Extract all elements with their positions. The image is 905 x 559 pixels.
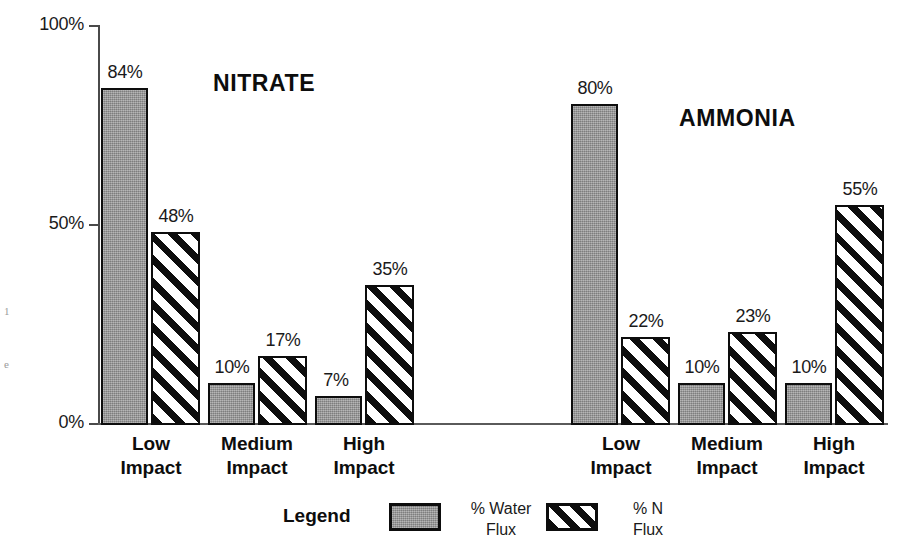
bar-value-nitrate-high-n-flux: 35% [355, 259, 425, 280]
legend-label-water-flux: % Water Flux [455, 499, 547, 541]
x-category-nitrate-low-line1: Low [105, 432, 197, 456]
x-category-nitrate-low: Low Impact [105, 432, 197, 480]
x-category-nitrate-medium: Medium Impact [207, 432, 307, 480]
panel-title-nitrate: NITRATE [213, 70, 315, 97]
x-category-nitrate-high-line1: High [318, 432, 410, 456]
bar-value-ammonia-high-water-flux: 10% [774, 357, 844, 378]
panel-title-ammonia: AMMONIA [679, 105, 796, 132]
x-category-nitrate-high: High Impact [318, 432, 410, 480]
legend-swatch-n-flux [546, 503, 598, 531]
bar-nitrate-low-water-flux [101, 88, 148, 425]
legend-title: Legend [283, 505, 351, 527]
bar-value-nitrate-medium-water-flux: 10% [197, 357, 267, 378]
y-tick-0 [89, 423, 98, 425]
chart-canvas: 1 e 100% 50% 0% NITRATE AMMONIA 84% 48% … [0, 0, 905, 559]
bar-value-nitrate-low-n-flux: 48% [141, 206, 211, 227]
y-tick-label-0: 0% [8, 412, 84, 433]
scan-artifact-left-lower: e [4, 358, 9, 370]
bar-ammonia-low-water-flux [571, 104, 618, 425]
bar-value-ammonia-medium-n-flux: 23% [718, 306, 788, 327]
x-category-ammonia-low-line1: Low [575, 432, 667, 456]
bar-ammonia-low-n-flux [621, 337, 670, 425]
y-tick-50 [89, 224, 98, 226]
bar-value-nitrate-high-water-flux: 7% [306, 370, 366, 391]
x-category-nitrate-high-line2: Impact [318, 456, 410, 480]
legend-label-n-flux: % N Flux [612, 499, 684, 541]
scan-artifact-left-upper: 1 [4, 305, 10, 317]
x-category-ammonia-medium-line1: Medium [677, 432, 777, 456]
y-axis-line [98, 25, 100, 424]
legend-label-water-flux-line2: Flux [455, 520, 547, 541]
bar-value-ammonia-low-n-flux: 22% [611, 311, 681, 332]
x-category-nitrate-medium-line2: Impact [207, 456, 307, 480]
legend-swatch-water-flux [389, 503, 441, 531]
bar-ammonia-high-water-flux [785, 383, 832, 425]
legend-label-n-flux-line2: Flux [612, 520, 684, 541]
x-category-ammonia-low: Low Impact [575, 432, 667, 480]
x-category-nitrate-medium-line1: Medium [207, 432, 307, 456]
x-category-ammonia-high: High Impact [788, 432, 880, 480]
bar-ammonia-high-n-flux [835, 205, 884, 425]
bar-nitrate-medium-water-flux [208, 383, 255, 425]
bar-nitrate-high-n-flux [365, 285, 414, 425]
x-category-ammonia-medium: Medium Impact [677, 432, 777, 480]
bar-value-nitrate-low-water-flux: 84% [90, 62, 160, 83]
x-category-ammonia-medium-line2: Impact [677, 456, 777, 480]
bar-value-ammonia-low-water-flux: 80% [560, 78, 630, 99]
bar-ammonia-medium-water-flux [678, 383, 725, 425]
bar-value-ammonia-high-n-flux: 55% [825, 179, 895, 200]
bar-value-ammonia-medium-water-flux: 10% [667, 357, 737, 378]
bar-ammonia-medium-n-flux [728, 332, 777, 425]
y-tick-100 [89, 25, 98, 27]
bar-nitrate-medium-n-flux [258, 356, 307, 425]
y-tick-label-50: 50% [8, 213, 84, 234]
legend-label-water-flux-line1: % Water [455, 499, 547, 520]
x-category-nitrate-low-line2: Impact [105, 456, 197, 480]
legend-label-n-flux-line1: % N [612, 499, 684, 520]
bar-value-nitrate-medium-n-flux: 17% [248, 330, 318, 351]
x-category-ammonia-low-line2: Impact [575, 456, 667, 480]
bar-nitrate-low-n-flux [151, 232, 200, 425]
x-category-ammonia-high-line2: Impact [788, 456, 880, 480]
y-tick-label-100: 100% [8, 14, 84, 35]
x-category-ammonia-high-line1: High [788, 432, 880, 456]
bar-nitrate-high-water-flux [315, 396, 362, 425]
